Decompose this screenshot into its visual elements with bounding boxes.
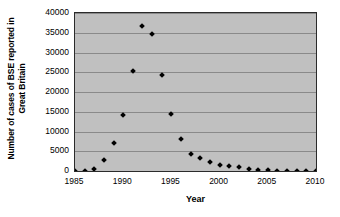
data-point (111, 140, 117, 146)
bse-cases-scatter-chart: Number of cases of BSE reported in Great… (0, 0, 340, 217)
x-axis-tick-labels: 198519901995200020052010 (0, 176, 340, 190)
x-axis-tick-label: 1990 (113, 176, 132, 186)
y-axis-tick-label: 35000 (45, 27, 69, 36)
data-point (74, 168, 78, 172)
gridline (75, 151, 316, 152)
x-axis-tick-label: 2010 (306, 176, 325, 186)
x-axis-tick-label: 1995 (161, 176, 180, 186)
data-point (275, 168, 281, 172)
data-point (159, 73, 165, 79)
x-axis-tick-label: 2000 (209, 176, 228, 186)
data-point (101, 157, 107, 163)
data-point (197, 156, 203, 162)
gridline (75, 53, 316, 54)
data-point (294, 168, 300, 172)
gridline (75, 33, 316, 34)
data-point (236, 164, 242, 170)
data-point (82, 168, 88, 172)
x-axis-title: Year (74, 194, 317, 204)
data-point (140, 23, 146, 29)
gridline (75, 112, 316, 113)
gridline (75, 13, 316, 14)
data-point (255, 167, 261, 172)
y-axis-tick-labels: 0500010000150002000025000300003500040000 (28, 6, 72, 180)
plot-area (74, 12, 317, 172)
y-axis-tick-label: 30000 (45, 47, 69, 56)
y-axis-title-line-2: Great Britain (16, 17, 27, 159)
y-axis-tick-label: 25000 (45, 67, 69, 76)
data-point (149, 31, 155, 37)
data-point (313, 168, 317, 172)
data-point (246, 166, 252, 172)
data-point (217, 163, 223, 169)
x-axis-tick-label: 2005 (257, 176, 276, 186)
data-point (178, 136, 184, 142)
x-axis-tick-label: 1985 (65, 176, 84, 186)
data-point (226, 163, 232, 169)
y-axis-tick-label: 20000 (45, 87, 69, 96)
data-point (265, 167, 271, 172)
y-axis-tick-label: 40000 (45, 8, 69, 17)
gridline (75, 132, 316, 133)
gridline (75, 92, 316, 93)
data-point (284, 168, 290, 172)
data-point (130, 69, 136, 75)
gridline (75, 72, 316, 73)
y-axis-tick-label: 15000 (45, 106, 69, 115)
y-axis-tick-label: 0 (64, 166, 69, 175)
y-axis-tick-label: 5000 (50, 146, 69, 155)
y-axis-title-line-1: Number of cases of BSE reported in (6, 17, 16, 159)
data-point (207, 159, 213, 165)
data-point (91, 166, 97, 172)
data-point (304, 168, 310, 172)
y-axis-tick-label: 10000 (45, 126, 69, 135)
